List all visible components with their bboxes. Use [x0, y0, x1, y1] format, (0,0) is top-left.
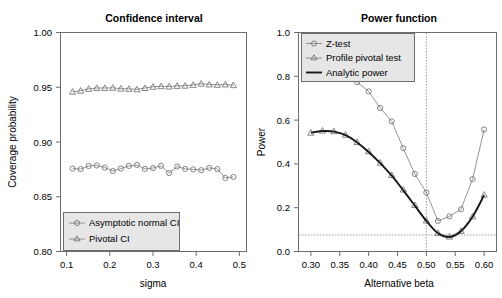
- right-legend[interactable]: Z-test Profile pivotal test Analytic pow…: [302, 34, 415, 82]
- panel-confidence-interval: Confidence interval 0.80 0.85 0.90 0.95 …: [0, 0, 251, 298]
- series-asymptotic-normal-ci: [70, 162, 236, 180]
- right-xtick-6: 0.60: [475, 259, 494, 270]
- right-ytick-4: 0.8: [277, 71, 290, 82]
- right-ytick-2: 0.4: [277, 158, 290, 169]
- right-xtick-4: 0.50: [417, 259, 436, 270]
- right-y-axis: 0.0 0.2 0.4 0.6 0.8 1.0: [277, 27, 299, 257]
- left-panel-title: Confidence interval: [105, 12, 203, 24]
- left-xtick-3: 0.4: [190, 259, 203, 270]
- right-xtick-2: 0.40: [359, 259, 378, 270]
- series-line: [73, 165, 234, 178]
- left-legend-label-2: Pivotal CI: [89, 233, 130, 244]
- left-xtick-1: 0.2: [103, 259, 116, 270]
- left-series-layer: [70, 81, 237, 181]
- series-analytic-power: [311, 131, 484, 237]
- right-xtick-1: 0.35: [331, 259, 350, 270]
- left-ytick-2: 0.90: [34, 137, 53, 148]
- panel-power-function: Power function 0.0 0.2 0.4 0.6 0.8: [251, 0, 502, 298]
- left-ytick-4: 1.00: [34, 27, 53, 38]
- left-ytick-3: 0.95: [34, 82, 53, 93]
- left-xtick-4: 0.5: [233, 259, 246, 270]
- right-xtick-3: 0.45: [388, 259, 407, 270]
- right-x-axis: 0.300.350.400.450.500.550.60: [302, 252, 494, 271]
- left-yaxis-label: Coverage probability: [7, 96, 18, 188]
- right-xtick-5: 0.55: [446, 259, 465, 270]
- left-xtick-0: 0.1: [60, 259, 73, 270]
- right-legend-label-1: Z-test: [326, 38, 351, 49]
- right-ytick-1: 0.2: [277, 202, 290, 213]
- right-ytick-5: 1.0: [277, 27, 290, 38]
- confidence-interval-plot: Confidence interval 0.80 0.85 0.90 0.95 …: [0, 0, 251, 298]
- series-line: [311, 131, 484, 237]
- right-yaxis-label: Power: [256, 127, 267, 156]
- right-ytick-0: 0.0: [277, 246, 290, 257]
- right-xtick-0: 0.30: [302, 259, 321, 270]
- right-xaxis-label: Alternative beta: [364, 278, 434, 289]
- left-ytick-0: 0.80: [34, 246, 53, 257]
- left-y-axis: 0.80 0.85 0.90 0.95 1.00: [34, 27, 61, 257]
- left-xtick-2: 0.3: [146, 259, 159, 270]
- left-legend-label-1: Asymptotic normal CI: [89, 217, 179, 228]
- right-legend-label-2: Profile pivotal test: [326, 52, 401, 63]
- right-ytick-3: 0.6: [277, 115, 290, 126]
- left-xaxis-label: sigma: [140, 278, 167, 289]
- left-ytick-1: 0.85: [34, 191, 53, 202]
- left-legend[interactable]: Asymptotic normal CI Pivotal CI: [64, 213, 180, 251]
- figure-canvas: Confidence interval 0.80 0.85 0.90 0.95 …: [0, 0, 502, 298]
- power-function-plot: Power function 0.0 0.2 0.4 0.6 0.8: [251, 0, 502, 298]
- series-pivotal-ci: [70, 81, 237, 95]
- right-legend-label-3: Analytic power: [326, 67, 388, 78]
- right-panel-title: Power function: [361, 12, 437, 24]
- left-x-axis: 0.1 0.2 0.3 0.4 0.5: [60, 252, 246, 271]
